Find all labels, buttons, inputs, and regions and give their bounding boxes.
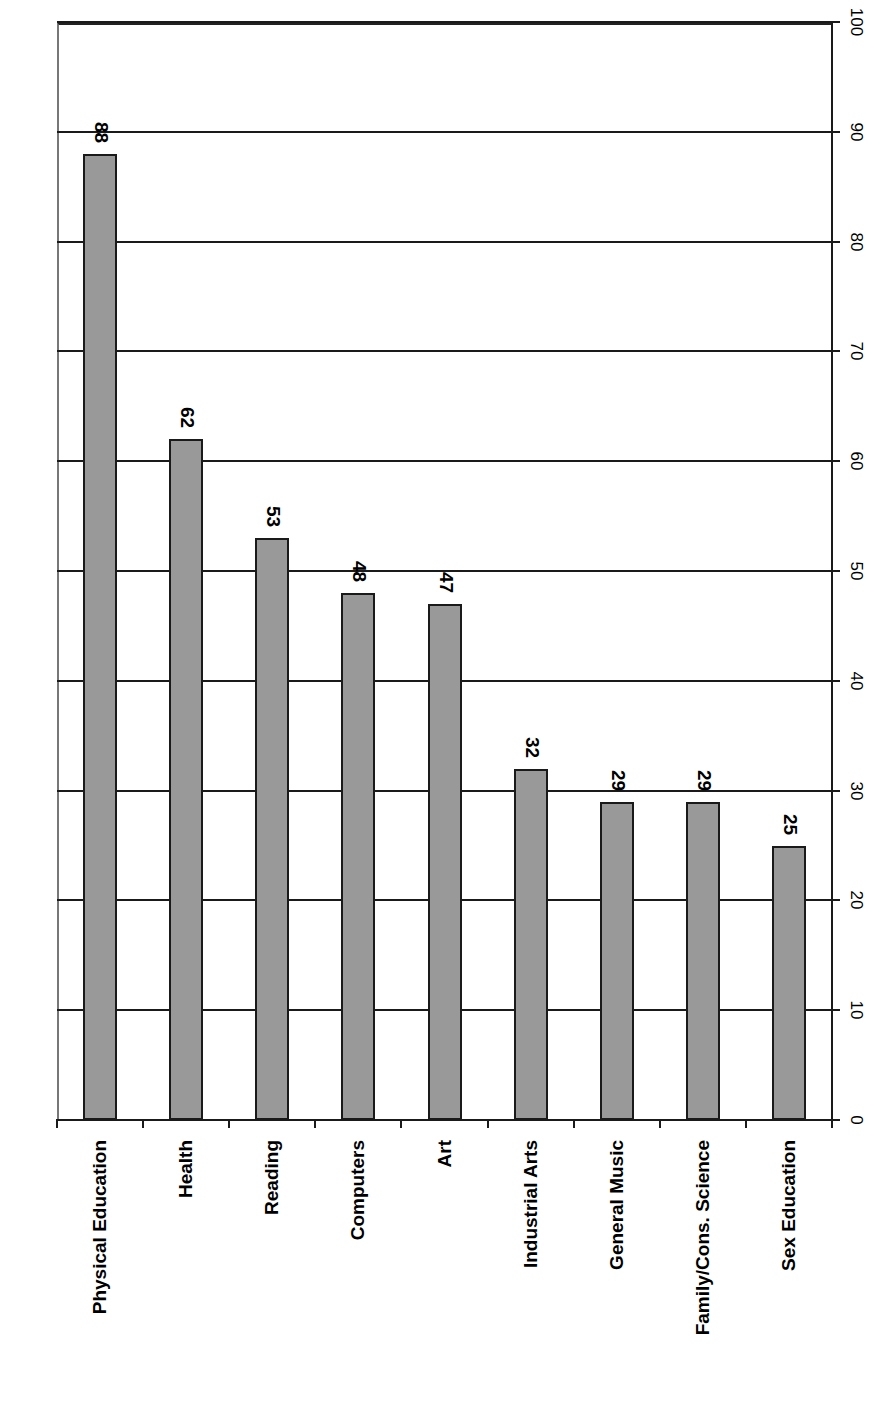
category-tick-mark xyxy=(228,1119,230,1128)
bar xyxy=(169,439,203,1120)
bar-data-label: 29 xyxy=(693,770,715,791)
gridline xyxy=(57,131,840,133)
gridline xyxy=(57,350,840,352)
category-label: Sex Education xyxy=(777,1140,801,1412)
gridline xyxy=(57,21,840,23)
value-tick-mark xyxy=(831,350,840,352)
bar-data-label: 88 xyxy=(90,122,112,143)
bar xyxy=(514,769,548,1120)
category-label: Health xyxy=(174,1140,198,1412)
bar xyxy=(600,802,634,1120)
value-tick-label: 20 xyxy=(846,880,866,920)
bar-data-label: 47 xyxy=(435,572,457,593)
category-label: Reading xyxy=(260,1140,284,1412)
category-tick-mark xyxy=(487,1119,489,1128)
value-tick-mark xyxy=(831,241,840,243)
category-tick-mark xyxy=(573,1119,575,1128)
value-tick-label: 80 xyxy=(846,222,866,262)
value-tick-mark xyxy=(831,680,840,682)
bar-data-label: 62 xyxy=(176,407,198,428)
bar-data-label: 32 xyxy=(521,737,543,758)
value-axis xyxy=(831,22,833,1122)
category-label: Physical Education xyxy=(88,1140,112,1412)
value-tick-mark xyxy=(831,1009,840,1011)
bar xyxy=(686,802,720,1120)
value-tick-label: 70 xyxy=(846,331,866,371)
value-tick-label: 40 xyxy=(846,661,866,701)
bar-data-label: 48 xyxy=(348,561,370,582)
value-tick-mark xyxy=(831,570,840,572)
value-tick-label: 10 xyxy=(846,990,866,1030)
category-tick-mark xyxy=(400,1119,402,1128)
value-tick-mark xyxy=(831,790,840,792)
value-tick-label: 90 xyxy=(846,112,866,152)
category-tick-mark xyxy=(831,1119,833,1128)
category-label: Computers xyxy=(346,1140,370,1412)
value-tick-label: 50 xyxy=(846,551,866,591)
category-label: Industrial Arts xyxy=(519,1140,543,1412)
value-tick-mark xyxy=(831,460,840,462)
category-label: General Music xyxy=(605,1140,629,1412)
gridline xyxy=(57,241,840,243)
bar xyxy=(255,538,289,1120)
value-tick-label: 100 xyxy=(846,2,866,42)
bar xyxy=(341,593,375,1120)
category-tick-mark xyxy=(659,1119,661,1128)
category-tick-mark xyxy=(745,1119,747,1128)
category-label: Family/Cons. Science xyxy=(691,1140,715,1412)
value-tick-label: 0 xyxy=(846,1100,866,1140)
bar-data-label: 25 xyxy=(779,814,801,835)
category-tick-mark xyxy=(56,1119,58,1128)
value-tick-mark xyxy=(831,21,840,23)
bar xyxy=(428,604,462,1120)
category-label: Art xyxy=(433,1140,457,1412)
bar-data-label: 29 xyxy=(607,770,629,791)
bar xyxy=(772,846,806,1121)
bar-chart: 0102030405060708090100 88Physical Educat… xyxy=(0,0,883,1412)
value-tick-mark xyxy=(831,899,840,901)
value-tick-mark xyxy=(831,131,840,133)
category-tick-mark xyxy=(142,1119,144,1128)
category-tick-mark xyxy=(314,1119,316,1128)
value-tick-label: 30 xyxy=(846,771,866,811)
bar-data-label: 53 xyxy=(262,506,284,527)
bar xyxy=(83,154,117,1120)
value-tick-label: 60 xyxy=(846,441,866,481)
